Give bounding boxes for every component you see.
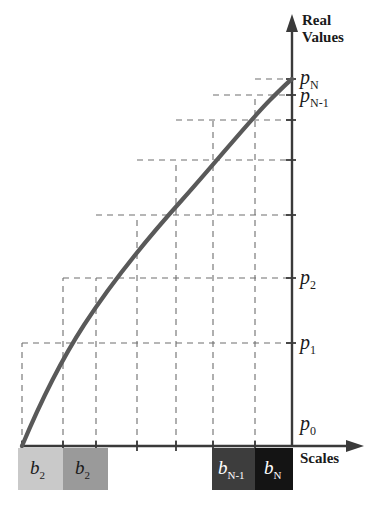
y-axis-arrowhead [286, 14, 298, 32]
swatch-label-b2-base: b [75, 457, 85, 478]
y-tick-label-p0-sub: 0 [310, 424, 316, 438]
y-tick-label-p1: p1 [300, 331, 316, 358]
y-tick-label-p2-sub: 2 [310, 278, 316, 292]
vertical-gridlines [22, 95, 255, 446]
y-tick-label-p0-base: p [300, 412, 310, 434]
y-tick-label-p0: p0 [300, 412, 316, 439]
y-tick-label-pN-1-sub: N-1 [310, 96, 329, 110]
swatch-label-bN: bN [264, 457, 281, 481]
swatch-label-b1-sub: 2 [40, 469, 46, 481]
quantization-curve-figure: Real Values Scales pN pN-1 p2 p1 p0 b2 b… [0, 0, 376, 515]
y-axis-title: Real Values [302, 12, 344, 46]
swatch-label-b2: b2 [75, 457, 90, 481]
swatch-label-bN-1-base: b [218, 457, 228, 478]
y-tick-label-pN-1: pN-1 [300, 84, 329, 111]
y-tick-label-p2-base: p [300, 266, 310, 288]
swatch-label-b1: b2 [30, 457, 45, 481]
figure-svg [0, 0, 376, 515]
y-axis-title-line1: Real [302, 12, 344, 29]
y-tick-label-p1-base: p [300, 331, 310, 353]
swatch-label-bN-1-sub: N-1 [228, 469, 245, 481]
y-tick-label-p1-sub: 1 [310, 343, 316, 357]
y-tick-label-pN-1-base: p [300, 84, 310, 106]
y-axis-title-line2: Values [302, 29, 344, 46]
x-axis-title: Scales [300, 450, 339, 467]
swatch-label-bN-sub: N [274, 469, 282, 481]
swatch-label-b2-sub: 2 [85, 469, 91, 481]
y-tick-label-p2: p2 [300, 266, 316, 293]
x-axis-arrowhead [346, 440, 364, 452]
scale-swatches [18, 448, 293, 490]
swatch-label-bN-base: b [264, 457, 274, 478]
swatch-label-b1-base: b [30, 457, 40, 478]
swatch-label-bN-1: bN-1 [218, 457, 245, 481]
